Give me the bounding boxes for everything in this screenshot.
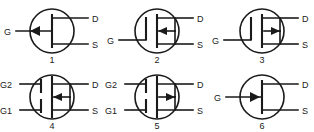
symbol-index-label: 4 [49,121,54,131]
substrate-arrow-icon [158,27,167,35]
gate-arrow-icon [30,26,40,36]
source-label: S [302,40,308,50]
gate-arrow-icon [250,92,260,102]
substrate-arrow-icon [166,93,175,101]
symbol-cell-6: G D S 6 [210,66,314,132]
drain-label: D [197,14,204,24]
drain-label: D [92,80,99,90]
symbol-cell-4: G2 G1 D S 4 [0,66,104,132]
symbol-index-label: 6 [259,121,264,131]
drain-label: D [302,80,309,90]
symbol-sheet: G D S 1 G D S 2 [0,0,314,132]
gate-label: G [4,27,11,37]
symbol-cell-1: G D S 1 [0,0,104,66]
drain-label: D [92,14,99,24]
gate2-label: G2 [0,80,12,90]
drain-label: D [302,14,309,24]
gate-label: G [107,36,114,46]
symbol-index-label: 2 [154,55,159,65]
gate-label: G [212,36,219,46]
source-label: S [92,40,98,50]
source-label: S [197,106,203,116]
drain-label: D [197,80,204,90]
symbol-index-label: 3 [259,55,264,65]
symbol-cell-5: G2 G1 D S 5 [105,66,209,132]
source-label: S [302,106,308,116]
gate1-label: G1 [105,106,117,116]
source-label: S [92,106,98,116]
symbol-index-label: 1 [49,55,54,65]
symbol-cell-2: G D S 2 [105,0,209,66]
gate-label: G [214,93,221,103]
source-label: S [197,40,203,50]
gate2-label: G2 [105,80,117,90]
substrate-arrow-icon [53,93,62,101]
substrate-arrow-icon [271,27,280,35]
symbol-cell-3: G D S 3 [210,0,314,66]
gate1-label: G1 [0,106,12,116]
symbol-index-label: 5 [154,121,159,131]
